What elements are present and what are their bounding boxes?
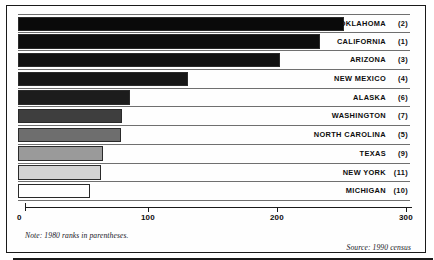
rank-1980: (3) <box>386 51 408 70</box>
chart-source: Source: 1990 census <box>347 243 411 252</box>
bar-label-michigan: MICHIGAN(10) <box>346 182 410 201</box>
bar-row: NORTH CAROLINA(5) <box>18 126 410 145</box>
bar-label-arizona: ARIZONA(3) <box>350 51 410 70</box>
x-axis-line <box>25 207 412 208</box>
bar-north-carolina[interactable] <box>18 128 121 143</box>
bar-row: NEW YORK(11) <box>18 164 410 183</box>
bar-row: NEW MEXICO(4) <box>18 70 410 89</box>
state-name: ALASKA <box>353 89 386 108</box>
state-name: CALIFORNIA <box>337 33 386 52</box>
bar-label-north-carolina: NORTH CAROLINA(5) <box>314 126 410 145</box>
x-axis-tick-label: 200 <box>270 213 284 222</box>
chart-note: Note: 1980 ranks in parentheses. <box>25 231 129 240</box>
x-axis-tick <box>277 207 278 212</box>
x-axis-tick-label: 300 <box>399 213 413 222</box>
bar-michigan[interactable] <box>18 184 90 199</box>
state-name: TEXAS <box>360 145 386 164</box>
rank-1980: (7) <box>386 107 408 126</box>
bottom-rule <box>13 258 433 260</box>
bar-label-texas: TEXAS(9) <box>360 145 410 164</box>
rank-1980: (5) <box>386 126 408 145</box>
figure-frame: OKLAHOMA(2)CALIFORNIA(1)ARIZONA(3)NEW ME… <box>6 5 426 253</box>
x-axis-tick <box>406 207 407 212</box>
x-axis-tick-label: 0 <box>17 213 22 222</box>
bar-label-washington: WASHINGTON(7) <box>332 107 410 126</box>
bar-row: ARIZONA(3) <box>18 51 410 70</box>
bar-row: OKLAHOMA(2) <box>18 14 410 33</box>
state-name: NEW YORK <box>343 164 386 183</box>
bar-row: TEXAS(9) <box>18 145 410 164</box>
state-name: MICHIGAN <box>346 182 386 201</box>
bar-chart-plot-area: OKLAHOMA(2)CALIFORNIA(1)ARIZONA(3)NEW ME… <box>18 14 410 202</box>
rank-1980: (6) <box>386 89 408 108</box>
rank-1980: (11) <box>386 164 408 183</box>
bar-alaska[interactable] <box>18 90 130 105</box>
state-name: WASHINGTON <box>332 107 386 126</box>
bar-label-new-mexico: NEW MEXICO(4) <box>334 70 410 89</box>
x-axis-tick-label: 100 <box>141 213 155 222</box>
bar-new-mexico[interactable] <box>18 72 188 87</box>
bar-row: WASHINGTON(7) <box>18 107 410 126</box>
rank-1980: (1) <box>386 33 408 52</box>
rank-1980: (10) <box>386 182 408 201</box>
bar-arizona[interactable] <box>18 53 280 68</box>
x-axis-tick <box>148 207 149 212</box>
state-name: NORTH CAROLINA <box>314 126 386 145</box>
state-name: ARIZONA <box>350 51 386 70</box>
rank-1980: (2) <box>386 15 408 34</box>
bar-label-california: CALIFORNIA(1) <box>337 33 410 52</box>
bar-oklahoma[interactable] <box>18 17 344 32</box>
bar-row: ALASKA(6) <box>18 89 410 108</box>
bar-label-new-york: NEW YORK(11) <box>343 164 410 183</box>
rank-1980: (9) <box>386 145 408 164</box>
bar-texas[interactable] <box>18 146 103 161</box>
state-name: OKLAHOMA <box>340 15 386 34</box>
rank-1980: (4) <box>386 70 408 89</box>
bar-new-york[interactable] <box>18 165 101 180</box>
bar-label-alaska: ALASKA(6) <box>353 89 410 108</box>
bar-california[interactable] <box>18 34 320 49</box>
bar-label-oklahoma: OKLAHOMA(2) <box>340 15 410 34</box>
state-name: NEW MEXICO <box>334 70 386 89</box>
bar-row: CALIFORNIA(1) <box>18 33 410 52</box>
bar-row: MICHIGAN(10) <box>18 182 410 201</box>
bar-washington[interactable] <box>18 109 122 124</box>
